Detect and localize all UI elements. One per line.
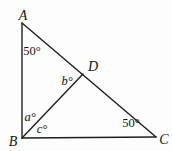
angle-label-c-at-B: c° [37,122,48,136]
angle-label-a-at-B: a° [24,110,35,124]
vertex-label-A: A [18,8,28,23]
angle-label-50-at-C: 50° [122,116,140,130]
side-BC-line [22,137,156,138]
triangle-diagram: A B C D 50° b° a° c° 50° [0,0,172,151]
vertex-label-C: C [159,132,169,147]
vertex-label-B: B [9,134,18,149]
segment-BD-line [22,74,83,138]
geometry-figure: A B C D 50° b° a° c° 50° [0,0,172,151]
angle-label-50-at-A: 50° [23,44,41,58]
vertex-label-D: D [87,59,98,74]
angle-label-b-at-D: b° [61,74,72,88]
